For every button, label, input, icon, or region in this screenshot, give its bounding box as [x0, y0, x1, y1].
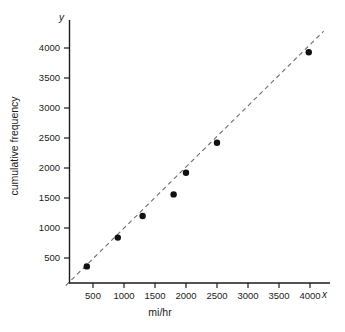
y-tick-label: 500 — [22, 252, 60, 263]
y-tick-label: 1000 — [22, 222, 60, 233]
fit-line — [66, 31, 324, 285]
data-points — [84, 49, 312, 270]
y-tick-label: 3000 — [22, 102, 60, 113]
data-point — [183, 170, 189, 176]
y-tick-label: 1500 — [22, 192, 60, 203]
y-tick-label: 4000 — [22, 42, 60, 53]
x-tick-label: 3500 — [262, 290, 296, 301]
data-point — [84, 263, 90, 269]
data-point — [139, 213, 145, 219]
y-axis-variable-label: y — [59, 12, 64, 23]
x-tick-label: 2000 — [169, 290, 203, 301]
scatter-chart: y x cumulative frequency mi/hr 500100015… — [0, 0, 345, 332]
x-tick-label: 4000 — [293, 290, 327, 301]
data-point — [306, 49, 312, 55]
y-tick-label: 2000 — [22, 162, 60, 173]
x-axis-title: mi/hr — [95, 306, 225, 318]
y-axis-title: cumulative frequency — [8, 86, 20, 206]
x-tick-label: 1500 — [138, 290, 172, 301]
y-axis-ticks — [64, 48, 69, 258]
data-point — [214, 140, 220, 146]
data-point — [115, 234, 121, 240]
y-tick-label: 2500 — [22, 132, 60, 143]
data-point — [170, 191, 176, 197]
x-tick-label: 1000 — [107, 290, 141, 301]
y-tick-label: 3500 — [22, 72, 60, 83]
x-tick-label: 500 — [76, 290, 110, 301]
x-tick-label: 3000 — [231, 290, 265, 301]
x-axis-ticks — [93, 283, 310, 288]
x-tick-label: 2500 — [200, 290, 234, 301]
